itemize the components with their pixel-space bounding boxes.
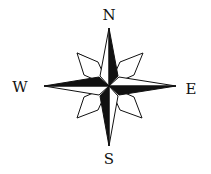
north-arm-right [109,28,118,86]
west-arm-top [44,77,109,86]
compass-rose-figure: N E S W [0,0,211,174]
north-label: N [102,8,115,23]
east-arm-top [109,77,176,86]
south-label: S [104,152,114,167]
compass-rose-icon [0,0,211,174]
south-arm-right [109,86,118,146]
west-arm-bottom [44,86,109,95]
east-label: E [186,82,197,97]
south-arm-left [100,86,109,146]
east-arm-bottom [109,86,176,95]
north-arm-left [100,28,109,86]
west-label: W [12,80,27,95]
